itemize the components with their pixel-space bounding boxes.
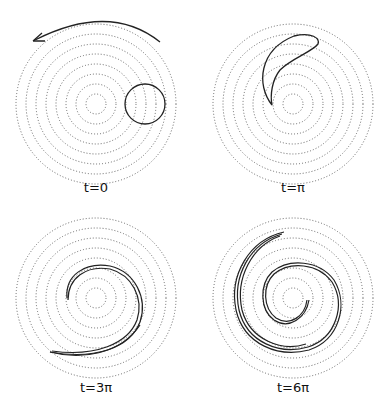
spiral-filament [235, 232, 341, 352]
blob [125, 84, 165, 124]
spiral-filament [50, 265, 142, 355]
panel-label: t=3π [56, 380, 136, 395]
stretched-blob [263, 35, 319, 105]
panel-t0: t=0 [0, 0, 194, 202]
panel-label: t=6π [253, 380, 333, 395]
panel-t-3pi: t=3π [0, 200, 194, 402]
figure: t=0 t=π t=3π [0, 0, 388, 405]
panel-t-6pi: t=6π [194, 200, 388, 402]
streamline-rings [16, 24, 176, 184]
panel-t-pi: t=π [194, 0, 388, 202]
streamline-rings [16, 218, 176, 378]
panel-label: t=π [253, 180, 333, 195]
streamline-rings [213, 24, 373, 184]
counterclockwise-arrow-icon [33, 21, 160, 42]
panel-label: t=0 [56, 180, 136, 195]
